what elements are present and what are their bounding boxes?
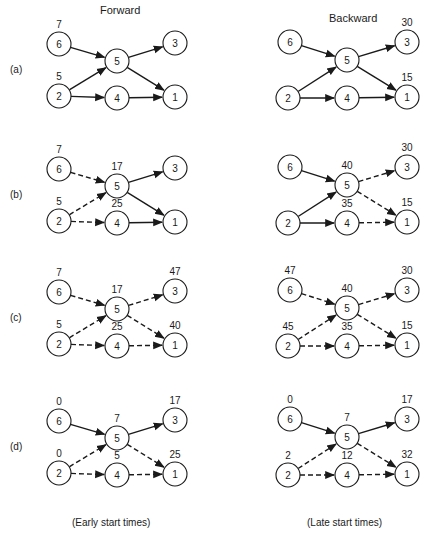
node-label: 6 — [56, 164, 62, 175]
node-label: 2 — [56, 216, 62, 227]
edge-5-1-dashed — [127, 315, 164, 338]
edge-5-1-dashed — [357, 191, 396, 215]
node-label: 3 — [172, 38, 178, 49]
node-time-value: 12 — [341, 450, 353, 461]
node-4: 425 — [105, 321, 129, 358]
node-time-value: 0 — [56, 448, 62, 459]
edge-2-4-dashed — [71, 344, 104, 345]
node-time-value: 25 — [111, 321, 123, 332]
node-label: 6 — [287, 414, 293, 425]
row-label: (c) — [10, 312, 22, 323]
node-5: 517 — [105, 161, 129, 198]
node-5: 5 — [105, 49, 129, 73]
node-time-value: 0 — [56, 396, 62, 407]
edge-5-3-dashed — [358, 294, 394, 305]
node-time-value: 30 — [401, 265, 413, 276]
edge-2-5-dashed — [69, 445, 106, 467]
node-label: 5 — [114, 433, 120, 444]
node-label: 6 — [287, 285, 293, 296]
node-2: 20 — [47, 448, 71, 485]
edge-5-3-dashed — [358, 171, 394, 182]
node-label: 3 — [172, 286, 178, 297]
node-label: 4 — [344, 341, 350, 352]
node-time-value: 7 — [56, 144, 62, 155]
edge-6-5-dashed — [71, 172, 105, 182]
edge-4-1-solid — [129, 222, 162, 223]
node-time-value: 15 — [401, 72, 413, 83]
edge-2-4-solid — [71, 96, 104, 97]
edge-4-1-dashed — [129, 345, 162, 346]
node-1: 132 — [395, 449, 419, 486]
row-1: (b)12534255176711523304355406 — [10, 142, 419, 235]
node-2: 2 — [276, 86, 300, 110]
node-3: 317 — [395, 394, 419, 431]
node-time-value: 47 — [284, 265, 296, 276]
node-5: 540 — [335, 283, 359, 320]
node-time-value: 15 — [401, 320, 413, 331]
node-label: 5 — [344, 432, 350, 443]
node-label: 2 — [56, 339, 62, 350]
node-2: 25 — [47, 71, 71, 108]
row-label: (d) — [10, 441, 22, 452]
edge-4-1-dashed — [359, 345, 394, 346]
node-time-value: 25 — [111, 198, 123, 209]
node-time-value: 0 — [287, 394, 293, 405]
edge-5-3-dashed — [128, 295, 162, 306]
edge-5-3-solid — [358, 46, 394, 57]
node-5: 5 — [335, 48, 359, 72]
forward-graph: 12534567 — [47, 19, 187, 110]
edge-2-5-solid — [69, 68, 106, 90]
node-time-value: 30 — [401, 17, 413, 28]
node-time-value: 15 — [401, 197, 413, 208]
node-time-value: 17 — [169, 395, 181, 406]
node-label: 1 — [172, 92, 178, 103]
node-3: 330 — [395, 265, 419, 302]
node-6: 6 — [278, 155, 302, 179]
node-2: 25 — [47, 196, 71, 233]
node-6: 60 — [47, 396, 71, 433]
node-label: 4 — [114, 341, 120, 352]
row-0: (a)125345671152330456 — [10, 17, 419, 110]
cpm-diagram-figure: Forward Backward (Early start times) (La… — [0, 0, 430, 537]
node-label: 5 — [114, 304, 120, 315]
forward-graph: 12520317455760 — [47, 395, 187, 487]
edge-5-1-dashed — [127, 444, 164, 467]
edge-5-1-dashed — [357, 443, 396, 467]
network-diagrams: (a)125345671152330456(b)1253425517671152… — [0, 0, 430, 537]
node-4: 45 — [105, 450, 129, 487]
edge-2-5-dashed — [69, 316, 106, 338]
node-label: 1 — [172, 340, 178, 351]
node-label: 6 — [287, 37, 293, 48]
edge-6-5-solid — [71, 424, 105, 434]
edge-2-4-dashed — [71, 473, 104, 474]
node-3: 347 — [163, 266, 187, 303]
edge-2-5-dashed — [69, 193, 106, 215]
node-label: 1 — [404, 92, 410, 103]
node-time-value: 40 — [169, 320, 181, 331]
node-label: 4 — [344, 93, 350, 104]
node-time-value: 5 — [56, 196, 62, 207]
node-2: 245 — [276, 321, 300, 358]
node-6: 647 — [278, 265, 302, 302]
node-3: 330 — [395, 142, 419, 179]
node-label: 6 — [287, 162, 293, 173]
node-2: 22 — [276, 450, 300, 487]
edge-5-1-solid — [127, 192, 164, 215]
node-3: 3 — [163, 31, 187, 55]
node-time-value: 5 — [56, 71, 62, 82]
node-time-value: 47 — [169, 266, 181, 277]
edge-6-5-solid — [71, 47, 105, 57]
node-label: 2 — [285, 93, 291, 104]
node-label: 5 — [344, 180, 350, 191]
backward-graph: 1152330456 — [276, 17, 419, 110]
node-label: 6 — [56, 416, 62, 427]
node-4: 435 — [335, 321, 359, 358]
node-time-value: 7 — [344, 412, 350, 423]
edge-4-1-solid — [129, 97, 162, 98]
edge-5-3-solid — [128, 172, 162, 183]
node-label: 1 — [404, 469, 410, 480]
node-label: 2 — [56, 91, 62, 102]
node-2: 25 — [47, 319, 71, 356]
edge-4-1-dashed — [359, 474, 394, 475]
node-time-value: 5 — [114, 450, 120, 461]
